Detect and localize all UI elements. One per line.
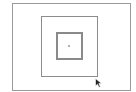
center-dot <box>68 45 70 47</box>
mouse-cursor-icon <box>95 74 103 84</box>
drawing-canvas[interactable] <box>0 0 136 92</box>
